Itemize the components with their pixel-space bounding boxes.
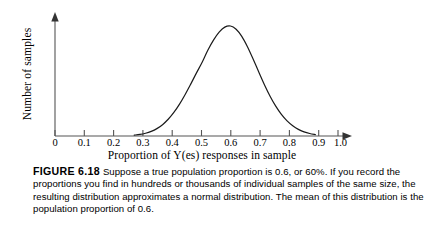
- figure-caption: FIGURE 6.18Suppose a true population pro…: [33, 165, 437, 215]
- x-axis-ticks: [55, 130, 338, 136]
- x-tick-label-8: 0.8: [274, 137, 304, 148]
- figure-number-label: FIGURE 6.18: [33, 165, 100, 177]
- y-axis-title: Number of samples: [21, 14, 33, 134]
- x-tick-label-3: 0.3: [128, 137, 158, 148]
- x-tick-label-0: 0: [40, 137, 70, 148]
- normal-distribution-curve: [134, 26, 315, 135]
- x-axis-title: Proportion of Y(es) responses in sample: [0, 149, 404, 161]
- x-tick-label-10: 1.0: [326, 137, 356, 148]
- x-tick-label-1: 0.1: [69, 137, 99, 148]
- y-axis: [51, 12, 58, 136]
- figure-container: Number of samples 0 0.1 0.2 0.3 0.4 0.5 …: [0, 0, 444, 249]
- chart-plot-area: Number of samples 0 0.1 0.2 0.3 0.4 0.5 …: [0, 0, 444, 164]
- x-tick-label-2: 0.2: [99, 137, 129, 148]
- x-tick-label-6: 0.6: [216, 137, 246, 148]
- x-tick-label-7: 0.7: [245, 137, 275, 148]
- x-tick-label-4: 0.4: [157, 137, 187, 148]
- y-axis-arrowhead-icon: [51, 12, 58, 22]
- x-tick-label-5: 0.5: [187, 137, 217, 148]
